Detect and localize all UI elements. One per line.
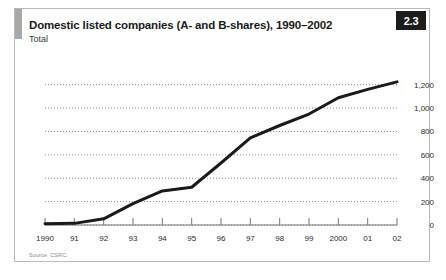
data-series-line — [45, 82, 397, 224]
x-axis-tick-label: 98 — [275, 234, 284, 243]
x-axis-tick-label: 99 — [305, 234, 314, 243]
page-title: Domestic listed companies (A- and B-shar… — [29, 18, 379, 32]
y-axis-tick-label: 400 — [406, 174, 434, 183]
x-axis-tick-label: 2000 — [329, 234, 347, 243]
y-axis-tick-label: 0 — [406, 221, 434, 230]
x-axis-tick-label: 92 — [99, 234, 108, 243]
x-axis-tick-label: 93 — [129, 234, 138, 243]
x-axis-tick-label: 95 — [187, 234, 196, 243]
x-axis-tick-label: 01 — [363, 234, 372, 243]
chart-subtitle: Total — [29, 33, 379, 46]
x-axis-tick-label: 1990 — [36, 234, 54, 243]
x-axis-tick-label: 94 — [158, 234, 167, 243]
plot-area — [27, 57, 402, 227]
y-axis-tick-label: 800 — [406, 127, 434, 136]
y-axis-tick-label: 1,200 — [406, 80, 434, 89]
title-block: Domestic listed companies (A- and B-shar… — [29, 18, 379, 46]
line-chart-svg — [27, 57, 402, 227]
x-axis-tick-label: 02 — [393, 234, 402, 243]
y-axis-tick-label: 200 — [406, 197, 434, 206]
y-axis-tick-label: 1,000 — [406, 104, 434, 113]
source-note: Source: CSRC. — [29, 252, 68, 258]
figure-card: Domestic listed companies (A- and B-shar… — [14, 8, 430, 262]
figure-number-badge: 2.3 — [396, 11, 426, 30]
accent-bar — [15, 9, 22, 39]
x-axis-tick-label: 97 — [246, 234, 255, 243]
x-axis-tick-label: 91 — [70, 234, 79, 243]
y-axis-tick-label: 600 — [406, 150, 434, 159]
x-axis-tick-label: 96 — [217, 234, 226, 243]
gridlines — [45, 85, 397, 225]
